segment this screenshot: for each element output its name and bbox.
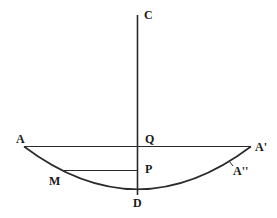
label-m: M: [49, 174, 60, 188]
label-p: P: [145, 162, 152, 176]
pendulum-arc-diagram: C A Q A' P A'' M D: [0, 0, 277, 218]
label-q: Q: [145, 132, 154, 146]
label-d: D: [133, 196, 142, 210]
label-c: C: [144, 8, 153, 22]
label-a-double-prime: A'': [233, 164, 248, 178]
label-a-prime: A': [255, 140, 267, 154]
label-a: A: [16, 132, 25, 146]
